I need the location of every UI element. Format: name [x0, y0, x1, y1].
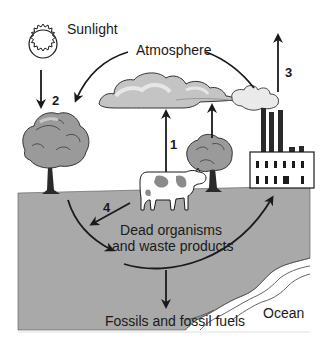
clouds-icon [99, 73, 236, 108]
arrow-smoke-to-atmosphere [206, 52, 254, 88]
label-atmosphere: Atmosphere [136, 42, 211, 58]
label-sunlight: Sunlight [67, 21, 118, 37]
label-dead-organisms: Dead organisms and waste products [112, 222, 230, 254]
carbon-cycle-diagram: Sunlight Atmosphere 2 1 3 4 Dead organis… [0, 0, 335, 345]
label-arrow-3: 3 [285, 65, 292, 80]
label-fossils: Fossils and fossil fuels [105, 313, 245, 329]
label-dead-organisms-line2: and waste products [112, 238, 230, 254]
tree-left-icon [23, 113, 89, 194]
sun-icon [29, 24, 57, 58]
label-dead-organisms-line1: Dead organisms [112, 222, 230, 238]
label-ocean: Ocean [263, 305, 304, 321]
label-arrow-4: 4 [103, 200, 110, 215]
factory-icon [250, 108, 314, 188]
label-arrow-1: 1 [170, 137, 177, 152]
label-arrow-2: 2 [52, 93, 59, 108]
factory-smoke [232, 86, 279, 111]
